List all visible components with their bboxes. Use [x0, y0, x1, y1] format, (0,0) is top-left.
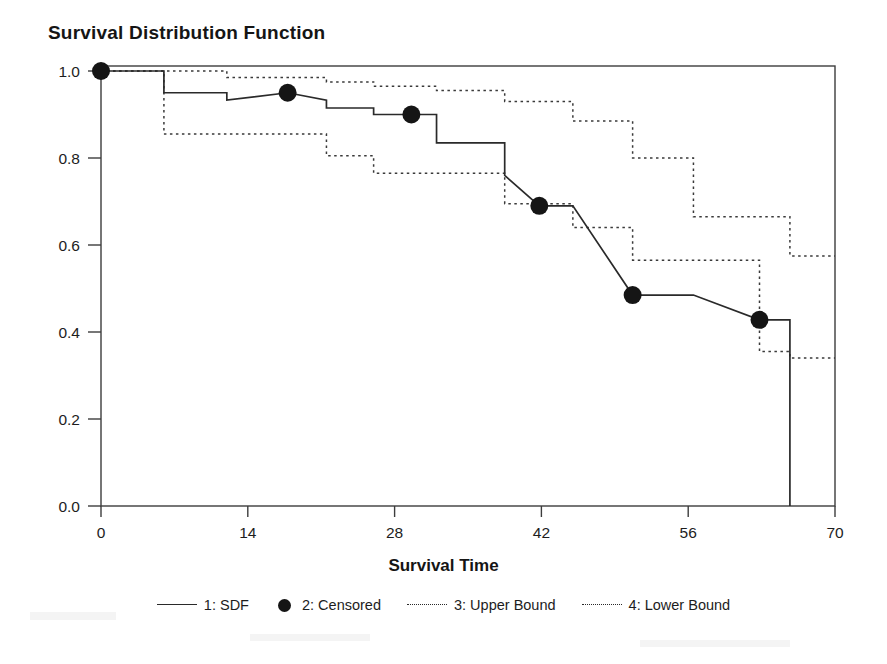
bound-line — [101, 71, 835, 256]
y-tick-label: 0.2 — [58, 411, 80, 428]
legend-entry: 2: Censored — [275, 598, 381, 613]
x-tick-label: 56 — [680, 524, 697, 541]
x-tick-label: 70 — [826, 524, 844, 541]
x-tick-label: 0 — [97, 524, 106, 541]
legend-dotted-line-icon — [582, 599, 622, 611]
bound-line — [101, 71, 835, 358]
y-tick-label: 0.0 — [58, 498, 80, 515]
x-tick-label: 14 — [239, 524, 257, 541]
plot-frame — [101, 66, 835, 506]
confidence-bounds — [101, 71, 835, 358]
y-axis-ticks: 0.00.20.40.60.81.0 — [58, 63, 101, 515]
x-axis-ticks: 01428425670 — [97, 506, 844, 541]
sdf-curve — [101, 71, 790, 506]
survival-plot-figure: Survival Distribution Function 014284256… — [0, 0, 887, 664]
legend-entry: 4: Lower Bound — [582, 598, 731, 613]
censored-marker — [530, 197, 548, 215]
x-axis-title: Survival Time — [0, 556, 887, 576]
legend-solid-line-icon — [157, 599, 197, 611]
legend-label: 1: SDF — [204, 598, 249, 613]
y-tick-label: 0.4 — [58, 324, 80, 341]
y-tick-label: 0.8 — [58, 150, 80, 167]
censored-marker — [92, 62, 110, 80]
censored-markers — [92, 62, 769, 329]
legend-dotted-line-icon — [407, 599, 447, 611]
legend-entry: 1: SDF — [157, 598, 249, 613]
legend-label: 3: Upper Bound — [454, 598, 556, 613]
legend-censored-marker-icon — [275, 599, 295, 611]
y-tick-label: 0.6 — [58, 237, 80, 254]
legend-entry: 3: Upper Bound — [407, 598, 556, 613]
censored-marker — [402, 106, 420, 124]
x-tick-label: 42 — [533, 524, 550, 541]
censored-marker — [279, 84, 297, 102]
plot-axes — [101, 66, 835, 506]
censored-marker — [624, 286, 642, 304]
chart-legend: 1: SDF2: Censored3: Upper Bound4: Lower … — [0, 598, 887, 613]
x-tick-label: 28 — [386, 524, 403, 541]
y-tick-label: 1.0 — [58, 63, 80, 80]
sdf-line — [101, 71, 790, 506]
legend-label: 2: Censored — [302, 598, 381, 613]
legend-label: 4: Lower Bound — [629, 598, 731, 613]
censored-marker — [751, 311, 769, 329]
